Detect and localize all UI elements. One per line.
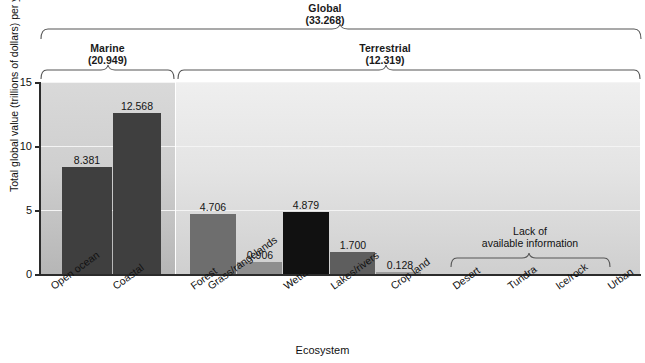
y-axis-title: Total global value (trillions of dollars… xyxy=(8,0,20,192)
group-label-global-value: (33.268) xyxy=(245,14,405,26)
bar-value-coastal: 12.568 xyxy=(102,100,172,112)
lack-note-line1: Lack of xyxy=(513,225,547,237)
bar-value-wetlands: 4.879 xyxy=(271,199,341,211)
bar-value-lakes-rivers: 1.700 xyxy=(318,239,388,251)
bracket-global xyxy=(40,28,642,40)
y-axis-line xyxy=(39,82,41,275)
bracket-marine xyxy=(40,68,176,80)
y-tick-label-10: 10 xyxy=(10,140,32,152)
bracket-terrestrial xyxy=(177,68,642,80)
group-label-marine-value: (20.949) xyxy=(40,54,175,66)
gridline-15 xyxy=(40,82,640,83)
group-label-global-name: Global xyxy=(245,2,405,14)
x-axis-title: Ecosystem xyxy=(0,344,645,356)
group-divider xyxy=(175,82,176,274)
bar-coastal xyxy=(113,113,161,274)
chart-figure: Global (33.268) Marine (20.949) Terrestr… xyxy=(0,0,645,363)
bar-value-forest: 4.706 xyxy=(178,201,248,213)
group-label-terrestrial: Terrestrial (12.319) xyxy=(300,42,470,66)
y-tick-label-0: 0 xyxy=(10,268,32,280)
lack-of-information-note: Lack of available information xyxy=(430,225,630,249)
group-label-terrestrial-name: Terrestrial xyxy=(300,42,470,54)
group-label-global: Global (33.268) xyxy=(245,2,405,26)
group-label-marine-name: Marine xyxy=(40,42,175,54)
group-label-marine: Marine (20.949) xyxy=(40,42,175,66)
plot-area: 8.381 12.568 4.706 0.906 4.879 1.700 0.1… xyxy=(40,82,640,274)
y-tick-label-5: 5 xyxy=(10,204,32,216)
bar-value-open-ocean: 8.381 xyxy=(52,154,122,166)
lack-note-line2: available information xyxy=(482,237,578,249)
group-label-terrestrial-value: (12.319) xyxy=(300,54,470,66)
y-tick-label-15: 15 xyxy=(10,76,32,88)
